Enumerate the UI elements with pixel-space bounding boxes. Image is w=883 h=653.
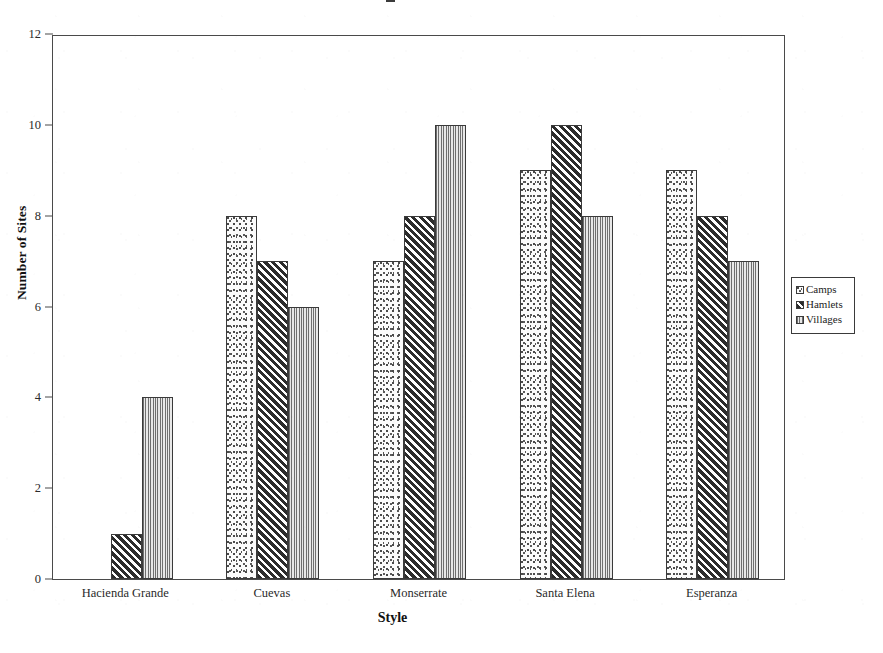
y-tick-mark [45, 579, 53, 580]
plot-area: 024681012 [52, 35, 785, 580]
legend-item-camps[interactable]: Camps [796, 282, 851, 297]
y-axis-title: Number of Sites [14, 206, 30, 300]
cropped-caption-fragment [386, 0, 395, 2]
bar-hamlets-hacienda-grande [111, 534, 142, 579]
bar-camps-monserrate [373, 261, 404, 579]
y-tick-label: 2 [35, 481, 41, 496]
legend-box: Camps Hamlets Villages [791, 277, 855, 334]
bar-camps-santa-elena [520, 170, 551, 579]
x-tick-label: Cuevas [253, 586, 290, 601]
bars-layer [53, 36, 784, 579]
legend-swatch-hamlets-icon [796, 301, 804, 309]
bar-hamlets-monserrate [404, 216, 435, 579]
y-tick-mark [45, 34, 53, 35]
y-tick-mark [45, 306, 53, 307]
y-tick-mark [45, 488, 53, 489]
bar-camps-esperanza [666, 170, 697, 579]
y-tick-label: 8 [35, 208, 41, 223]
legend-label-hamlets: Hamlets [806, 299, 843, 310]
x-tick-label: Esperanza [686, 586, 737, 601]
y-tick-mark [45, 215, 53, 216]
x-axis-tick-labels: Hacienda GrandeCuevasMonserrateSanta Ele… [52, 586, 785, 606]
bar-villages-monserrate [435, 125, 466, 579]
bar-villages-hacienda-grande [142, 397, 173, 579]
y-tick-label: 4 [35, 390, 41, 405]
legend-label-camps: Camps [806, 284, 837, 295]
bar-hamlets-cuevas [257, 261, 288, 579]
x-axis-title: Style [0, 610, 785, 626]
x-tick-label: Monserrate [390, 586, 447, 601]
bar-villages-cuevas [288, 307, 319, 580]
legend-label-villages: Villages [806, 314, 842, 325]
bar-villages-esperanza [728, 261, 759, 579]
bar-villages-santa-elena [582, 216, 613, 579]
bar-camps-cuevas [226, 216, 257, 579]
y-tick-mark [45, 124, 53, 125]
y-tick-label: 6 [35, 299, 41, 314]
x-tick-label: Hacienda Grande [82, 586, 169, 601]
legend-item-hamlets[interactable]: Hamlets [796, 297, 851, 312]
legend-swatch-camps-icon [796, 286, 804, 294]
y-tick-mark [45, 397, 53, 398]
y-tick-label: 12 [29, 27, 42, 42]
legend-swatch-villages-icon [796, 316, 804, 324]
bar-hamlets-esperanza [697, 216, 728, 579]
y-tick-label: 0 [35, 572, 41, 587]
x-tick-label: Santa Elena [535, 586, 594, 601]
y-tick-label: 10 [29, 117, 42, 132]
bar-hamlets-santa-elena [551, 125, 582, 579]
legend-item-villages[interactable]: Villages [796, 312, 851, 327]
